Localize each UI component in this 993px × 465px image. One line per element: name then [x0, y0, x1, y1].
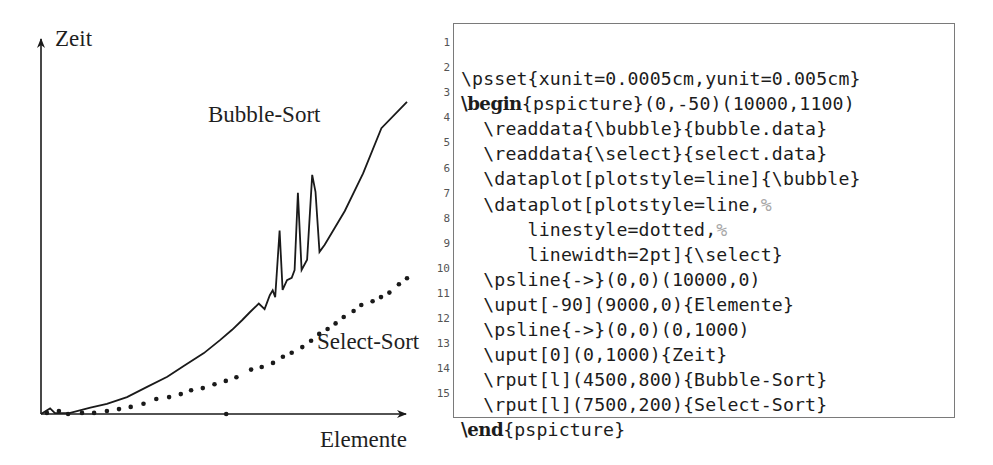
select-sort-dot: [154, 397, 159, 402]
line-number: 8: [420, 212, 450, 225]
comment-marker: %: [716, 219, 727, 240]
code-line: 3 \readdata{\bubble}{bubble.data}: [454, 80, 474, 105]
line-number: 1: [420, 36, 450, 49]
line-number: 12: [420, 312, 450, 325]
select-sort-dot: [397, 282, 402, 287]
code-line: 2 \begin{pspicture}(0,-50)(10000,1100): [454, 55, 474, 80]
select-sort-dot: [234, 375, 239, 380]
select-sort-dot: [370, 299, 375, 304]
code-listing-frame: 1 \psset{xunit=0.0005cm,yunit=0.005cm} 2…: [453, 23, 955, 418]
select-sort-dot: [105, 409, 110, 414]
code-text: \begin{pspicture}(0,-50)(10000,1100): [461, 93, 855, 114]
code-text: \dataplot[plotstyle=line,%: [461, 194, 772, 215]
select-sort-dot: [300, 345, 305, 350]
bubble-sort-label: Bubble-Sort: [208, 103, 320, 126]
code-text: \readdata{\bubble}{bubble.data}: [461, 118, 827, 139]
code-text: \psline{->}(0,0)(10000,0): [461, 269, 761, 290]
code-line: 10 \uput[-90](9000,0){Elemente}: [454, 256, 474, 281]
code-text: \psline{->}(0,0)(0,1000): [461, 319, 750, 340]
code-line: 12 \uput[0](0,1000){Zeit}: [454, 306, 474, 331]
line-number: 2: [420, 61, 450, 74]
code-text: \psset{xunit=0.0005cm,yunit=0.005cm}: [461, 68, 861, 89]
line-number: 3: [420, 86, 450, 99]
code-text: linestyle=dotted,%: [461, 219, 727, 240]
code-text: \rput[l](4500,800){Bubble-Sort}: [461, 369, 827, 390]
code-line: 11 \psline{->}(0,0)(0,1000): [454, 281, 474, 306]
code-line: 13 \rput[l](4500,800){Bubble-Sort}: [454, 331, 474, 356]
line-number: 14: [420, 362, 450, 375]
select-sort-dot: [224, 379, 229, 384]
select-sort-dot: [201, 386, 206, 391]
code-line: 14 \rput[l](7500,200){Select-Sort}: [454, 356, 474, 381]
line-number: 13: [420, 337, 450, 350]
line-number: 7: [420, 187, 450, 200]
select-sort-dot: [128, 405, 133, 410]
x-axis-label: Elemente: [320, 428, 407, 451]
select-sort-dot: [92, 411, 97, 416]
pstricks-plot-figure: Zeit Bubble-Sort Select-Sort Elemente: [0, 0, 440, 465]
select-sort-dot: [359, 303, 364, 308]
select-sort-dot: [405, 276, 410, 281]
select-sort-dot: [167, 395, 172, 400]
select-sort-dot: [351, 309, 356, 314]
select-sort-dot: [379, 295, 384, 300]
code-line: 7 linestyle=dotted,%: [454, 181, 474, 206]
code-line: 1 \psset{xunit=0.0005cm,yunit=0.005cm}: [454, 30, 474, 55]
select-sort-dot: [80, 411, 85, 416]
select-sort-dot: [66, 412, 71, 417]
select-sort-dot: [271, 361, 276, 366]
code-line: 9 \psline{->}(0,0)(10000,0): [454, 231, 474, 256]
select-sort-dot: [281, 355, 286, 360]
select-sort-label: Select-Sort: [317, 330, 419, 353]
select-sort-dot: [224, 412, 229, 417]
line-number: 11: [420, 287, 450, 300]
select-sort-dot: [309, 338, 314, 343]
y-axis-label: Zeit: [55, 27, 92, 50]
line-number: 6: [420, 162, 450, 175]
select-sort-dot: [189, 388, 194, 393]
select-sort-dot: [179, 392, 184, 397]
code-text: linewidth=2pt]{\select}: [461, 244, 783, 265]
line-number: 5: [420, 136, 450, 149]
code-line: 4 \readdata{\select}{select.data}: [454, 105, 474, 130]
select-sort-dot: [387, 290, 392, 295]
code-text: \readdata{\select}{select.data}: [461, 143, 827, 164]
select-sort-dot: [249, 367, 254, 372]
select-sort-dot: [117, 407, 122, 412]
code-text: \uput[0](0,1000){Zeit}: [461, 344, 727, 365]
select-sort-dot: [333, 321, 338, 326]
select-sort-dot: [57, 409, 62, 414]
select-sort-dot: [141, 402, 146, 407]
code-text: \end{pspicture}: [461, 419, 625, 440]
select-sort-dot: [212, 382, 217, 387]
code-line: 5 \dataplot[plotstyle=line]{\bubble}: [454, 130, 474, 155]
line-number: 9: [420, 237, 450, 250]
plot-canvas: [0, 0, 440, 465]
code-text: \dataplot[plotstyle=line]{\bubble}: [461, 168, 861, 189]
select-sort-dot: [289, 350, 294, 355]
code-line: 6 \dataplot[plotstyle=line,%: [454, 156, 474, 181]
select-sort-dot: [45, 411, 50, 416]
line-number: 15: [420, 387, 450, 400]
comment-marker: %: [761, 194, 772, 215]
code-line: 15 \end{pspicture}: [454, 381, 474, 406]
line-number: 4: [420, 111, 450, 124]
axes: [41, 39, 406, 414]
code-text: \rput[l](7500,200){Select-Sort}: [461, 394, 827, 415]
select-sort-dot: [259, 365, 264, 370]
select-sort-dot: [341, 315, 346, 320]
bubble-sort-line: [41, 102, 407, 414]
line-number: 10: [420, 262, 450, 275]
code-line: 8 linewidth=2pt]{\select}: [454, 206, 474, 231]
keyword: \end: [461, 419, 503, 440]
code-text: \uput[-90](9000,0){Elemente}: [461, 294, 794, 315]
